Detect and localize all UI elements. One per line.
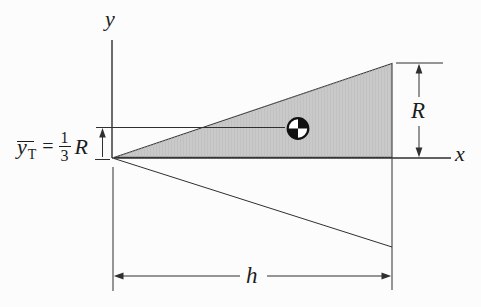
shaded-triangle-texture	[114, 64, 392, 158]
fraction-numerator: 1	[59, 130, 71, 146]
r-up-arrowhead	[416, 64, 423, 74]
ybar-overbar	[17, 141, 34, 143]
h-right-arrowhead	[382, 273, 392, 280]
y-axis-label: y	[105, 6, 115, 31]
fraction-denominator: 3	[59, 146, 71, 163]
x-axis-label: x	[455, 141, 465, 166]
formula-radius-symbol: R	[75, 134, 88, 160]
ybar-symbol: yT	[17, 134, 36, 160]
one-third-fraction: 1 3	[59, 130, 71, 163]
equals-sign: =	[42, 135, 53, 158]
ybar-subscript: T	[28, 147, 37, 162]
h-dimension-label: h	[246, 263, 258, 289]
ybar-variable: y	[17, 134, 27, 159]
centroid-formula: yT = 1 3 R	[17, 128, 88, 165]
r-down-arrowhead	[416, 148, 423, 158]
h-left-arrowhead	[114, 273, 124, 280]
ybar-up-arrowhead	[99, 128, 106, 138]
centroid-triangle-figure: y x R h yT = 1 3 R	[0, 0, 481, 307]
r-dimension-label: R	[411, 98, 425, 124]
centroid-icon	[288, 118, 309, 139]
mirror-hypotenuse-line	[114, 159, 392, 248]
